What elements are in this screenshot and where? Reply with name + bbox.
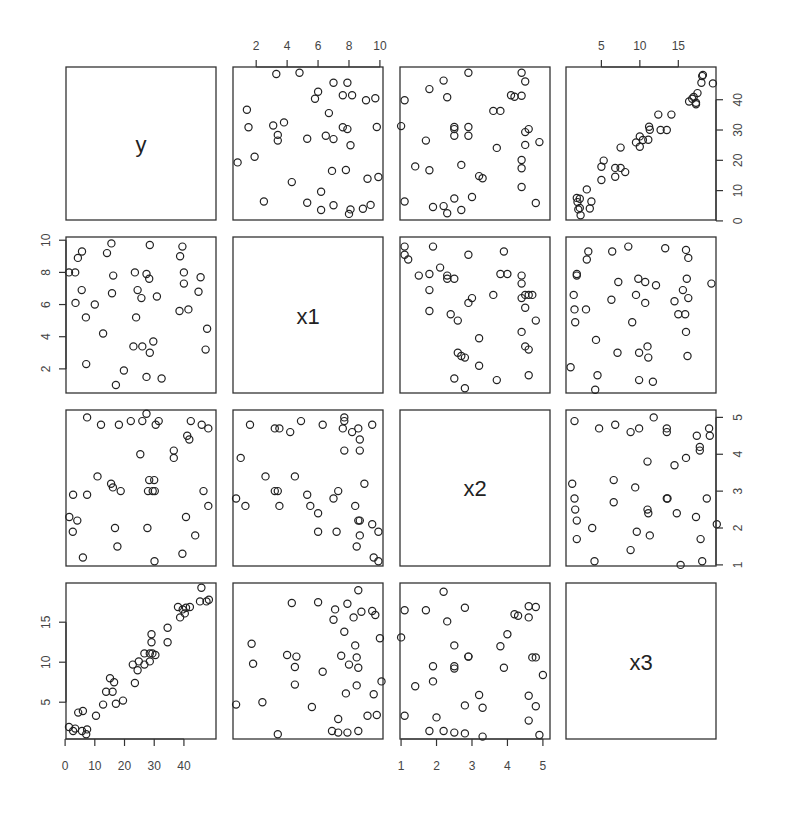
- data-point: [437, 264, 444, 271]
- data-point: [70, 491, 77, 498]
- tick-label: 2: [253, 39, 260, 53]
- tick-label: 6: [39, 301, 53, 308]
- panel-points-x1-vs-y: [65, 240, 210, 389]
- data-point: [532, 199, 539, 206]
- diagonal-label-x2: x2: [463, 476, 486, 501]
- data-point: [645, 136, 652, 143]
- data-point: [461, 385, 468, 392]
- data-point: [332, 606, 339, 613]
- data-point: [706, 432, 713, 439]
- data-point: [465, 299, 472, 306]
- data-point: [333, 528, 340, 535]
- data-point: [97, 421, 104, 428]
- data-point: [352, 502, 359, 509]
- data-point: [151, 477, 158, 484]
- data-point: [497, 643, 504, 650]
- data-point: [319, 421, 326, 428]
- data-point: [82, 314, 89, 321]
- data-point: [280, 119, 287, 126]
- tick-label: 30: [148, 759, 162, 773]
- data-point: [315, 528, 322, 535]
- data-point: [355, 664, 362, 671]
- data-point: [308, 703, 315, 710]
- data-point: [139, 343, 146, 350]
- data-point: [362, 97, 369, 104]
- data-point: [682, 328, 689, 335]
- data-point: [525, 372, 532, 379]
- data-point: [364, 712, 371, 719]
- data-point: [291, 681, 298, 688]
- data-point: [350, 614, 357, 621]
- data-point: [355, 587, 362, 594]
- data-point: [353, 654, 360, 661]
- tick-label: 20: [731, 153, 745, 167]
- data-point: [143, 410, 150, 417]
- data-point: [205, 596, 212, 603]
- data-point: [398, 123, 405, 130]
- data-point: [288, 179, 295, 186]
- scatter-panel-x1-vs-x2: [400, 237, 550, 393]
- data-point: [273, 70, 280, 77]
- panel-points-y-vs-x2: [398, 69, 544, 217]
- data-point: [646, 532, 653, 539]
- data-point: [144, 524, 151, 531]
- data-point: [644, 458, 651, 465]
- data-point: [179, 550, 186, 557]
- data-point: [426, 287, 433, 294]
- scatter-panel-x1-vs-x3: [566, 237, 716, 393]
- data-point: [699, 558, 706, 565]
- data-point: [138, 295, 145, 302]
- scatter-panel-x3-vs-x2: [400, 583, 550, 739]
- data-point: [185, 306, 192, 313]
- data-point: [250, 660, 257, 667]
- data-point: [369, 421, 376, 428]
- data-point: [315, 88, 322, 95]
- data-point: [75, 709, 82, 716]
- data-point: [288, 599, 295, 606]
- data-point: [355, 727, 362, 734]
- diagonal-label-x3: x3: [629, 650, 652, 675]
- data-point: [461, 604, 468, 611]
- data-point: [570, 291, 577, 298]
- data-point: [539, 671, 546, 678]
- tick-label: 10: [88, 759, 102, 773]
- data-point: [426, 167, 433, 174]
- data-point: [339, 425, 346, 432]
- data-point: [370, 691, 377, 698]
- data-point: [325, 110, 332, 117]
- data-point: [170, 447, 177, 454]
- data-point: [504, 631, 511, 638]
- data-point: [341, 628, 348, 635]
- data-point: [451, 729, 458, 736]
- data-point: [405, 256, 412, 263]
- data-point: [103, 250, 110, 257]
- data-point: [627, 429, 634, 436]
- tick-label: 2: [731, 524, 745, 531]
- data-point: [426, 270, 433, 277]
- panel-points-x3-vs-y: [65, 584, 212, 738]
- data-point: [585, 248, 592, 255]
- tick-label: 4: [504, 759, 511, 773]
- data-point: [106, 675, 113, 682]
- data-point: [706, 425, 713, 432]
- data-point: [476, 335, 483, 342]
- data-point: [642, 299, 649, 306]
- data-point: [330, 495, 337, 502]
- data-point: [335, 488, 342, 495]
- data-point: [632, 484, 639, 491]
- data-point: [401, 607, 408, 614]
- data-point: [627, 547, 634, 554]
- data-point: [429, 663, 436, 670]
- tick-label: 3: [469, 759, 476, 773]
- data-point: [330, 202, 337, 209]
- data-point: [465, 251, 472, 258]
- panel-points-x2-vs-y: [66, 410, 212, 565]
- data-point: [433, 714, 440, 721]
- data-point: [652, 282, 659, 289]
- data-point: [378, 678, 385, 685]
- data-point: [461, 702, 468, 709]
- data-point: [632, 291, 639, 298]
- data-point: [675, 311, 682, 318]
- data-point: [415, 272, 422, 279]
- data-point: [187, 418, 194, 425]
